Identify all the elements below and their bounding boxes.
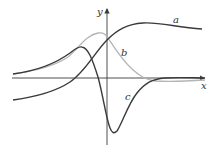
curve-a <box>13 23 202 100</box>
curve-c-label: c <box>125 91 131 102</box>
curve-a-label: a <box>173 14 179 25</box>
y-axis-label: y <box>96 6 103 17</box>
curve-b-label: b <box>121 47 127 58</box>
function-derivatives-diagram: y x a b c <box>0 0 215 154</box>
x-axis-label: x <box>201 80 207 91</box>
curve-b <box>13 33 205 82</box>
curve-c <box>13 47 205 133</box>
